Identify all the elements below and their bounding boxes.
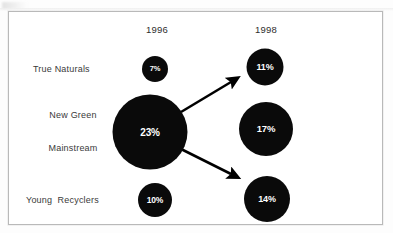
bubble-label-1998-new-green-mainstream: 17% xyxy=(257,124,275,134)
bubble-1996-new-green-mainstream: 23% xyxy=(113,95,188,170)
bubble-label-1998-true-naturals: 11% xyxy=(257,63,274,72)
row-label-new-green-line1: New Green xyxy=(38,110,108,121)
bubble-1998-new-green-mainstream: 17% xyxy=(239,102,293,156)
row-label-true-naturals: True Naturals xyxy=(33,64,90,75)
bubble-1998-true-naturals: 11% xyxy=(247,49,284,86)
bubble-1996-true-naturals: 7% xyxy=(142,56,168,82)
row-label-new-green-mainstream: New Green Mainstream xyxy=(38,88,108,176)
column-header-1996: 1996 xyxy=(146,24,168,35)
bubble-label-1998-young-recyclers: 14% xyxy=(258,195,275,204)
figure-root: 1996 1998 True Naturals New Green Mainst… xyxy=(0,0,393,233)
bubble-label-1996-young-recyclers: 10% xyxy=(147,196,163,205)
row-label-new-green-line2: Mainstream xyxy=(38,143,108,154)
bubble-label-1996-new-green-mainstream: 23% xyxy=(140,127,159,137)
column-header-1998: 1998 xyxy=(255,24,277,35)
bubble-1996-young-recyclers: 10% xyxy=(138,183,172,217)
row-label-young-recyclers: Young Recyclers xyxy=(26,195,99,206)
bubble-label-1996-true-naturals: 7% xyxy=(150,65,160,73)
bubble-1998-young-recyclers: 14% xyxy=(244,176,290,222)
